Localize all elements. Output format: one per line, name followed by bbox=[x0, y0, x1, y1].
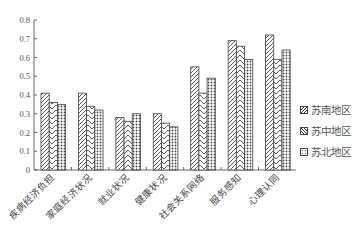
legend-item-sunan: 苏南地区 bbox=[300, 99, 351, 120]
bar bbox=[170, 127, 178, 170]
bar bbox=[207, 78, 215, 170]
bar bbox=[153, 114, 161, 170]
x-category-label: 心理认同 bbox=[245, 172, 281, 208]
bar bbox=[116, 118, 124, 171]
legend-label: 苏南地区 bbox=[311, 102, 351, 117]
y-tick-label: 0.2 bbox=[19, 128, 30, 138]
bar bbox=[245, 59, 253, 170]
bar bbox=[95, 110, 103, 170]
diagonal-hatch-swatch-icon bbox=[300, 106, 308, 114]
bar bbox=[41, 93, 49, 170]
bar bbox=[87, 106, 95, 170]
y-tick-label: 0.1 bbox=[19, 146, 30, 156]
x-category-label: 服务感知 bbox=[208, 172, 244, 208]
chevron-hatch-swatch-icon bbox=[300, 127, 308, 135]
bar bbox=[124, 121, 132, 170]
legend-item-subei: 苏北地区 bbox=[300, 141, 351, 162]
y-tick-label: 0 bbox=[26, 165, 30, 175]
bar bbox=[282, 50, 290, 170]
y-tick-label: 0.7 bbox=[19, 34, 30, 44]
bar bbox=[49, 103, 57, 171]
x-category-label: 健康状况 bbox=[133, 172, 169, 208]
legend-label: 苏北地区 bbox=[311, 144, 351, 159]
x-category-label: 就业状况 bbox=[96, 172, 132, 208]
crosshatch-swatch-icon bbox=[300, 148, 308, 156]
y-tick-label: 0.4 bbox=[19, 90, 30, 100]
y-tick-label: 0.6 bbox=[19, 53, 30, 63]
legend-item-suzhong: 苏中地区 bbox=[300, 120, 351, 141]
bar bbox=[266, 35, 274, 170]
y-tick-label: 0.5 bbox=[19, 71, 30, 81]
y-tick-label: 0.8 bbox=[19, 15, 30, 25]
legend-label: 苏中地区 bbox=[311, 123, 351, 138]
bar bbox=[78, 93, 86, 170]
chart-legend: 苏南地区 苏中地区 苏北地区 bbox=[300, 99, 351, 162]
bar bbox=[161, 123, 169, 170]
bar bbox=[236, 46, 244, 170]
bar bbox=[191, 67, 199, 170]
bar bbox=[132, 114, 140, 170]
bar bbox=[228, 41, 236, 170]
bar bbox=[199, 93, 207, 170]
bar bbox=[274, 59, 282, 170]
y-tick-label: 0.3 bbox=[19, 109, 30, 119]
bar bbox=[57, 104, 65, 170]
